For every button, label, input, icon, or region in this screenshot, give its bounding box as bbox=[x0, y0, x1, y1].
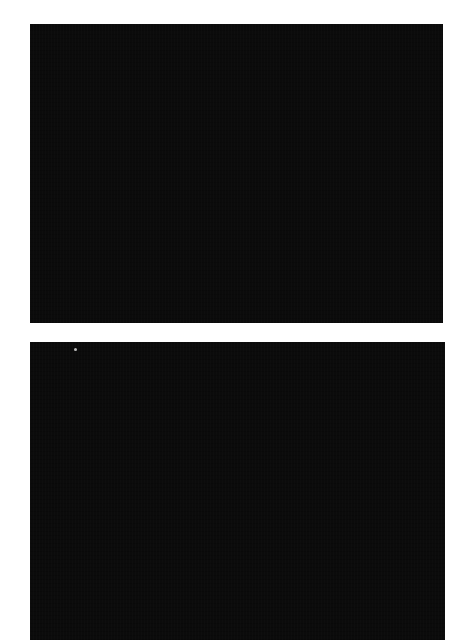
light-speck bbox=[74, 348, 77, 351]
dark-image-panel-bottom bbox=[30, 342, 445, 640]
page bbox=[0, 0, 476, 640]
dark-image-panel-top bbox=[30, 24, 443, 323]
